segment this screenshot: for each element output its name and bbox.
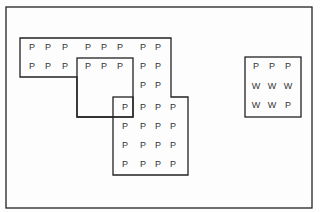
cell-label: P (269, 62, 275, 71)
cell-label: P (62, 43, 68, 52)
cell-label: P (29, 43, 35, 52)
cell-label: W (268, 82, 277, 91)
cell-label: P (170, 160, 176, 169)
cell-label: P (101, 43, 107, 52)
cell-label: P (122, 122, 128, 131)
cell-label: P (29, 62, 35, 71)
cell-label: P (45, 43, 51, 52)
cell-label: P (170, 103, 176, 112)
cell-label: P (170, 122, 176, 131)
cell-label: P (253, 62, 259, 71)
cell-label: P (155, 81, 161, 90)
cell-label: P (45, 62, 51, 71)
cell-label: P (140, 160, 146, 169)
cell-label: P (155, 160, 161, 169)
cell-label: P (140, 141, 146, 150)
cell-label: P (140, 122, 146, 131)
cell-label: P (101, 62, 107, 71)
cell-label: P (140, 103, 146, 112)
cell-label: W (284, 82, 293, 91)
cell-label: P (140, 81, 146, 90)
cell-label: P (122, 141, 128, 150)
cell-label: P (117, 62, 123, 71)
cell-label: P (62, 62, 68, 71)
cell-label: W (252, 82, 261, 91)
cell-label: W (252, 101, 261, 110)
cell-label: P (155, 141, 161, 150)
cell-label: P (285, 62, 291, 71)
cell-label: P (285, 101, 291, 110)
cell-label: P (122, 103, 128, 112)
cell-label: P (170, 141, 176, 150)
cell-label: W (268, 101, 277, 110)
cell-label: P (117, 43, 123, 52)
cell-label: P (140, 62, 146, 71)
cell-label: P (85, 62, 91, 71)
cell-label: P (85, 43, 91, 52)
cell-label: P (155, 62, 161, 71)
cell-label: P (155, 103, 161, 112)
cell-label: P (140, 43, 146, 52)
cell-label: P (155, 122, 161, 131)
cell-label: P (122, 160, 128, 169)
cell-label: P (155, 43, 161, 52)
